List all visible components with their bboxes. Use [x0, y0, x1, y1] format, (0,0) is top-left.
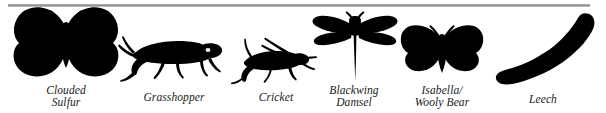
damselfly-silhouette-wrap — [310, 11, 400, 81]
grasshopper-icon — [116, 30, 232, 82]
figure-blackwing-damsel: Blackwing Damsel — [304, 0, 404, 113]
butterfly-silhouette-wrap — [12, 6, 120, 80]
insect-silhouette-plate: Clouded Sulfur — [0, 0, 606, 113]
figure-isabella-wooly-bear: Isabella/ Wooly Bear — [396, 0, 488, 113]
moth-silhouette-wrap — [400, 21, 484, 79]
grasshopper-silhouette-wrap — [116, 30, 232, 82]
figure-leech: Leech — [484, 0, 602, 113]
figure-grasshopper: Grasshopper — [108, 0, 240, 113]
caption-isabella-wooly-bear: Isabella/ Wooly Bear — [396, 84, 488, 108]
caption-grasshopper: Grasshopper — [108, 91, 240, 103]
moth-icon — [400, 21, 484, 79]
caption-blackwing-damsel: Blackwing Damsel — [304, 84, 404, 108]
butterfly-icon — [12, 6, 120, 80]
leech-silhouette-wrap — [488, 10, 598, 86]
leech-icon — [488, 10, 598, 86]
caption-leech: Leech — [484, 93, 602, 105]
damselfly-icon — [310, 11, 400, 81]
